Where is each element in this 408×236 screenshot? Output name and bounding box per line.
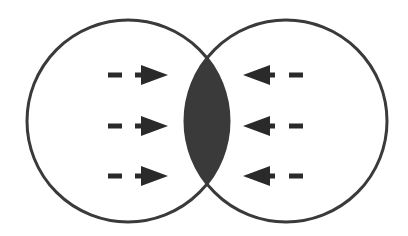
left-arrows xyxy=(108,65,168,186)
right-arrow-icon xyxy=(108,166,168,186)
right-arrows xyxy=(243,65,303,186)
left-arrow-icon xyxy=(243,116,303,136)
overlapping-circles-diagram xyxy=(0,0,408,236)
left-arrow-icon xyxy=(243,65,303,85)
left-arrow-icon xyxy=(243,166,303,186)
right-arrow-icon xyxy=(108,116,168,136)
right-arrow-icon xyxy=(108,65,168,85)
